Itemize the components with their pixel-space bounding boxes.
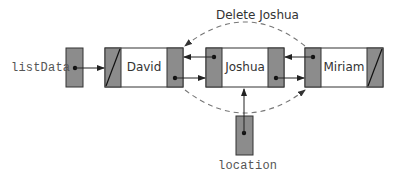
david-next-cell bbox=[167, 48, 183, 87]
node-miriam-info: Miriam bbox=[321, 60, 367, 74]
joshua-back-cell bbox=[206, 48, 222, 87]
node-david-info: David bbox=[121, 60, 167, 74]
operation-label: Delete Joshua bbox=[216, 8, 299, 22]
node-joshua-info: Joshua bbox=[222, 60, 268, 74]
miriam-back-cell bbox=[305, 48, 321, 87]
location-label: location bbox=[218, 159, 277, 173]
bypass-back-dashed-arrow bbox=[185, 22, 305, 46]
joshua-next-cell bbox=[268, 48, 284, 87]
bypass-next-dashed-arrow bbox=[185, 90, 305, 113]
diagram-canvas bbox=[0, 0, 398, 178]
listdata-label: listData bbox=[11, 61, 70, 75]
